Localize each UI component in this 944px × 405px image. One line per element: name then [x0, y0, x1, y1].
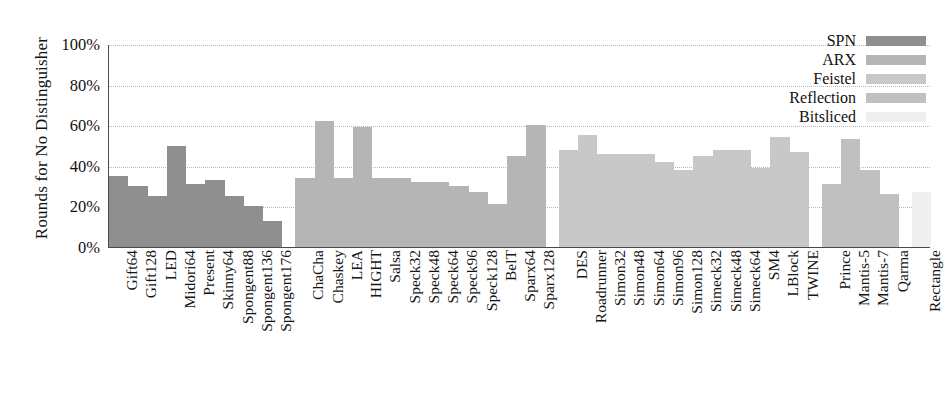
legend-item: SPN: [726, 31, 926, 50]
y-tick-label: 0%: [78, 238, 100, 258]
x-tick-label: Sparx128: [540, 250, 558, 309]
x-tick-label: Simeck48: [727, 250, 745, 312]
x-tick-label: Simon32: [611, 250, 629, 306]
bar: [244, 206, 263, 247]
x-tick-label: Speck48: [425, 250, 443, 303]
x-tick-label: Simon128: [688, 250, 706, 314]
x-tick-label: Sparx64: [521, 250, 539, 302]
bar: [880, 194, 899, 247]
bar: [770, 137, 789, 247]
legend-label: ARX: [822, 51, 856, 69]
x-tick-label: ChaCha: [309, 250, 327, 300]
x-tick-label: Simon96: [669, 250, 687, 306]
bar: [526, 125, 545, 247]
legend: SPNARXFeistelReflectionBitsliced: [726, 31, 926, 126]
x-tick-label: Mantis-7: [874, 250, 892, 306]
x-tick-label: Salsa: [386, 250, 404, 283]
bar: [449, 186, 468, 247]
legend-item: Bitsliced: [726, 107, 926, 126]
x-tick-label: Spongent88: [239, 250, 257, 324]
bar: [488, 204, 507, 247]
x-tick-label: Spongent176: [277, 250, 295, 332]
y-tick-label: 20%: [70, 197, 100, 217]
bar: [295, 178, 314, 247]
bar: [334, 178, 353, 247]
bar: [616, 154, 635, 247]
y-tick-label: 80%: [70, 76, 100, 96]
legend-swatch: [866, 55, 926, 65]
bar: [655, 162, 674, 247]
x-tick-label: Gift128: [142, 250, 160, 298]
bar: [263, 221, 282, 247]
legend-swatch: [866, 74, 926, 84]
legend-swatch: [866, 93, 926, 103]
bar: [751, 168, 770, 247]
y-tick-label: 60%: [70, 116, 100, 136]
x-tick-label: Midori64: [181, 250, 199, 309]
x-tick-label: Rectangle: [926, 250, 944, 312]
x-tick-label: DES: [573, 250, 591, 279]
x-tick-label: BelT: [502, 250, 520, 281]
y-tick-label: 40%: [70, 157, 100, 177]
x-tick-label: Gift64: [123, 250, 141, 290]
x-tick-label: Speck128: [483, 250, 501, 311]
bar: [822, 184, 841, 247]
legend-item: ARX: [726, 50, 926, 69]
x-tick-label: Speck96: [463, 250, 481, 303]
bar: [128, 186, 147, 247]
bar: [411, 182, 430, 247]
x-tick-label: Speck64: [444, 250, 462, 303]
bar: [732, 150, 751, 247]
x-tick-label: Chaskey: [329, 250, 347, 303]
bar: [469, 192, 488, 247]
x-tick-label: Mantis-5: [855, 250, 873, 306]
x-tick-label: Simeck32: [707, 250, 725, 312]
bar: [559, 150, 578, 247]
legend-label: SPN: [827, 32, 856, 50]
legend-item: Feistel: [726, 69, 926, 88]
x-tick-label: LBlock: [784, 250, 802, 297]
legend-item: Reflection: [726, 88, 926, 107]
bar: [597, 154, 616, 247]
x-tick-label: Spongent136: [258, 250, 276, 332]
bar: [693, 156, 712, 247]
bar: [353, 127, 372, 247]
bar: [372, 178, 391, 247]
bar: [167, 146, 186, 248]
bar: [225, 196, 244, 247]
x-tick-label: Present: [200, 250, 218, 296]
x-tick-label: LED: [162, 250, 180, 280]
bar: [430, 182, 449, 247]
x-tick-label: HIGHT: [367, 250, 385, 298]
bar: [790, 152, 809, 247]
bar: [507, 156, 526, 247]
bar: [636, 154, 655, 247]
bar: [674, 170, 693, 247]
x-axis-tick-labels: Gift64Gift128LEDMidori64PresentSkinny64S…: [108, 250, 930, 400]
x-tick-label: Prince: [836, 250, 854, 290]
legend-label: Reflection: [789, 89, 856, 107]
x-tick-label: Roadrunner: [592, 250, 610, 323]
bar: [912, 192, 931, 247]
bar: [392, 178, 411, 247]
bar: [713, 150, 732, 247]
bar: [860, 170, 879, 247]
bar: [205, 180, 224, 247]
bar: [186, 184, 205, 247]
legend-label: Bitsliced: [799, 108, 856, 126]
x-tick-label: LEA: [348, 250, 366, 280]
bar: [578, 135, 597, 247]
legend-label: Feistel: [813, 70, 856, 88]
x-tick-label: Speck32: [406, 250, 424, 303]
x-tick-label: Skinny64: [219, 250, 237, 309]
x-tick-label: Simeck64: [746, 250, 764, 312]
bar: [841, 139, 860, 247]
legend-swatch: [866, 112, 926, 122]
x-tick-label: Simon64: [650, 250, 668, 306]
y-tick-label: 100%: [62, 35, 101, 55]
x-tick-label: Qarma: [894, 250, 912, 292]
legend-swatch: [866, 36, 926, 46]
x-tick-label: Simon48: [630, 250, 648, 306]
x-tick-label: TWINE: [804, 250, 822, 300]
